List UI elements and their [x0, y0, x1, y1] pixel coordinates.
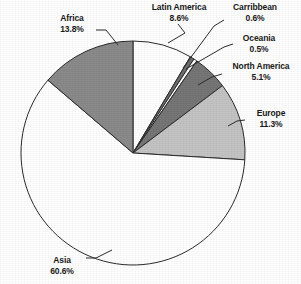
slice-label-latin-america-name: Latin America — [140, 2, 218, 13]
slice-label-carribbean: Carribbean 0.6% — [224, 2, 286, 23]
slice-label-carribbean-name: Carribbean — [224, 2, 286, 13]
slice-label-africa-value: 13.8% — [44, 24, 100, 35]
slice-label-europe-value: 11.3% — [245, 119, 297, 130]
leader-line-latin-america — [168, 24, 185, 43]
slice-label-europe-name: Europe — [245, 108, 297, 119]
slice-label-north-america: North America 5.1% — [222, 61, 300, 82]
slice-label-latin-america: Latin America 8.6% — [140, 2, 218, 23]
slice-label-europe: Europe 11.3% — [245, 108, 297, 129]
slice-label-asia: Asia 60.6% — [38, 255, 86, 276]
slice-label-oceania: Oceania 0.5% — [233, 33, 285, 54]
slice-label-carribbean-value: 0.6% — [224, 13, 286, 24]
slice-label-africa-name: Africa — [44, 13, 100, 24]
slice-label-north-america-name: North America — [222, 61, 300, 72]
slice-label-asia-name: Asia — [38, 255, 86, 266]
pie-slice-group — [21, 41, 245, 265]
slice-label-oceania-value: 0.5% — [233, 44, 285, 55]
slice-label-latin-america-value: 8.6% — [140, 13, 218, 24]
slice-label-oceania-name: Oceania — [233, 33, 285, 44]
slice-label-africa: Africa 13.8% — [44, 13, 100, 34]
slice-label-asia-value: 60.6% — [38, 266, 86, 277]
slice-label-north-america-value: 5.1% — [222, 72, 300, 83]
pie-chart-figure: Africa 13.8% Latin America 8.6% Carribbe… — [0, 0, 301, 284]
